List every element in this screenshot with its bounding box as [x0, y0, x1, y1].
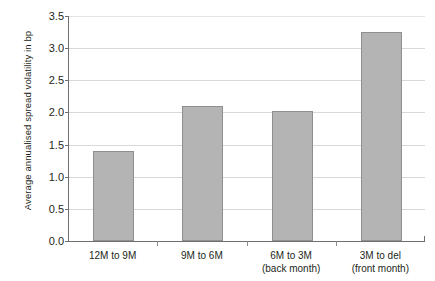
y-axis-tick-mark	[65, 48, 69, 49]
x-axis-category-label: 9M to 6M	[181, 250, 223, 263]
x-axis-category-label-line2: (front month)	[352, 263, 409, 276]
x-axis-category-label: 3M to del(front month)	[352, 250, 409, 275]
plot-area	[68, 16, 425, 241]
y-axis-tick-label: 1.5	[24, 139, 64, 150]
x-axis-category-label: 12M to 9M	[89, 250, 136, 263]
y-axis-tick-mark	[65, 112, 69, 113]
y-axis-tick-mark	[65, 145, 69, 146]
bar	[182, 106, 223, 241]
bar	[272, 111, 313, 241]
y-axis-tick-label: 0.5	[24, 203, 64, 214]
y-axis-tick-label: 1.0	[24, 171, 64, 182]
bar-chart: Average annualised spread volatility in …	[0, 0, 435, 281]
x-axis-category-label-line1: 9M to 6M	[181, 250, 223, 261]
gridline	[69, 16, 425, 17]
y-axis-tick-label: 3.5	[24, 11, 64, 22]
y-axis-tick-label: 3.0	[24, 43, 64, 54]
y-axis-tick-label: 2.5	[24, 75, 64, 86]
bar	[93, 151, 134, 241]
y-axis-tick-label: 2.0	[24, 107, 64, 118]
x-axis-tick-mark	[247, 241, 248, 246]
x-axis-category-label-line1: 3M to del	[360, 250, 401, 261]
y-axis-tick-mark	[65, 177, 69, 178]
bar	[361, 32, 402, 241]
y-axis-tick-labels: 0.00.51.01.52.02.53.03.5	[24, 0, 64, 281]
x-axis-category-label-line1: 6M to 3M	[270, 250, 312, 261]
y-axis-tick-label: 0.0	[24, 236, 64, 247]
x-axis-category-label-line1: 12M to 9M	[89, 250, 136, 261]
x-axis-tick-mark	[336, 241, 337, 246]
y-axis-tick-mark	[65, 16, 69, 17]
x-axis-tick-mark	[157, 241, 158, 246]
x-axis-category-label: 6M to 3M(back month)	[262, 250, 320, 275]
x-axis-right-end-tick	[424, 236, 425, 241]
y-axis-tick-mark	[65, 80, 69, 81]
x-axis-category-label-line2: (back month)	[262, 263, 320, 276]
y-axis-tick-mark	[65, 209, 69, 210]
